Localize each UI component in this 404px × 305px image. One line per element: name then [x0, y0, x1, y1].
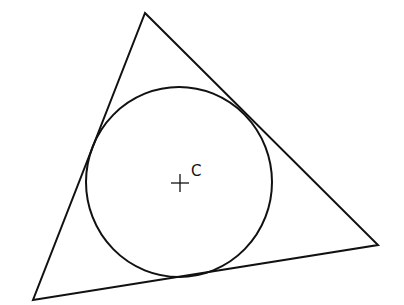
triangle [33, 13, 378, 300]
inscribed-circle [86, 87, 272, 277]
center-label: C [191, 162, 201, 180]
triangle-incircle-diagram: C [0, 0, 404, 305]
center-cross-marker [171, 174, 189, 192]
